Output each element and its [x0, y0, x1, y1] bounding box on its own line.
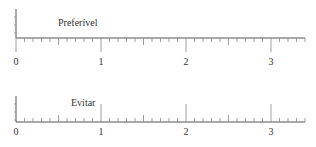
axis-label-0-top: 0	[14, 56, 19, 67]
axis-label-0-bottom: 0	[14, 126, 19, 137]
panel-label-preferivel: Preferível	[58, 17, 97, 28]
axis-label-1-top: 1	[99, 56, 104, 67]
axis-label-2-top: 2	[184, 56, 189, 67]
axis-label-3-top: 3	[269, 56, 274, 67]
panel-label-evitar: Evitar	[71, 97, 95, 108]
axis-label-3-bottom: 3	[269, 126, 274, 137]
axis-label-2-bottom: 2	[184, 126, 189, 137]
tick-direction-diagram	[0, 0, 316, 147]
axis-label-1-bottom: 1	[99, 126, 104, 137]
